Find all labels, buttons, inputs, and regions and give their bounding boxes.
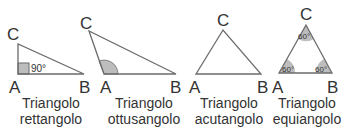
angle-label-a: 60° [282,65,294,74]
triangle-ottusangolo: C A B [80,14,181,97]
right-angle-marker [18,63,29,74]
caption-line1: Triangolo [99,95,189,111]
caption-acutangolo: Triangolo acutangolo [184,95,274,127]
caption-ottusangolo: Triangolo ottusangolo [99,95,189,127]
triangle-acutangolo: C A B [189,11,268,97]
caption-line1: Triangolo [184,95,274,111]
vertex-label-c: C [217,11,229,30]
caption-equiangolo: Triangolo equiangolo [262,95,346,127]
caption-line2: ottusangolo [99,111,189,127]
caption-rettangolo: Triangolo rettangolo [6,95,96,127]
vertex-label-c: C [300,5,312,24]
caption-line2: equiangolo [262,111,346,127]
vertex-label-c: C [80,14,92,33]
triangle-shape [89,31,176,74]
angle-label-b: 60° [315,65,327,74]
angle-label-90: 90° [31,63,46,74]
triangle-shape [196,30,261,74]
vertex-label-c: C [7,25,19,44]
angle-label-c: 60° [298,32,310,41]
caption-line1: Triangolo [6,95,96,111]
triangle-rettangolo: 90° C A B [7,25,90,97]
caption-line1: Triangolo [262,95,346,111]
triangle-equiangolo: 60° 60° 60° C A B [272,5,338,97]
caption-line2: rettangolo [6,111,96,127]
caption-line2: acutangolo [184,111,274,127]
